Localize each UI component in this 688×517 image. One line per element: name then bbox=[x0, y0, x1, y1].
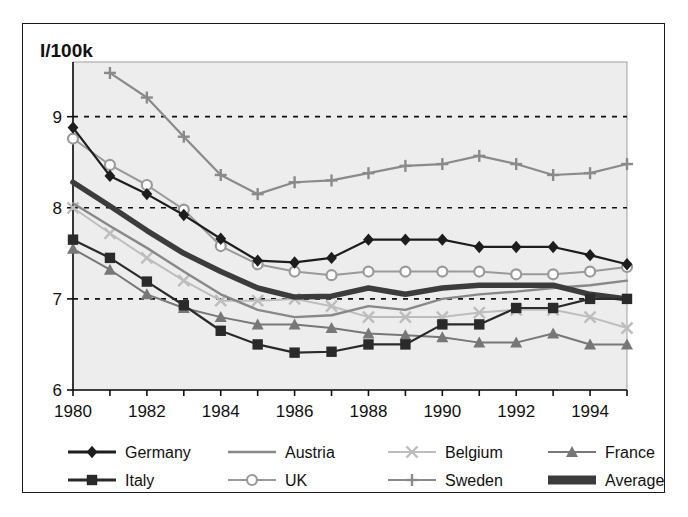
legend-item-average[interactable]: Average bbox=[548, 472, 664, 489]
legend-label-belgium: Belgium bbox=[445, 444, 503, 461]
legend-label-average: Average bbox=[605, 472, 664, 489]
marker-italy-1993 bbox=[548, 303, 558, 313]
legend-item-france[interactable]: France bbox=[548, 444, 655, 461]
marker-italy-1989 bbox=[400, 339, 410, 349]
legend-label-uk: UK bbox=[285, 472, 308, 489]
marker-uk-1990 bbox=[437, 267, 447, 277]
marker-italy-1981 bbox=[105, 253, 115, 263]
x-tick-label-1986: 1986 bbox=[276, 402, 314, 421]
legend-item-germany[interactable]: Germany bbox=[68, 444, 191, 461]
legend-label-austria: Austria bbox=[285, 444, 335, 461]
marker-uk-1988 bbox=[363, 267, 373, 277]
marker-uk-1989 bbox=[400, 267, 410, 277]
legend-item-belgium[interactable]: Belgium bbox=[388, 444, 503, 461]
legend-item-italy[interactable]: Italy bbox=[68, 472, 154, 489]
legend-marker-italy bbox=[87, 475, 97, 485]
legend-swatch-average bbox=[548, 476, 596, 485]
marker-italy-1985 bbox=[252, 339, 262, 349]
y-tick-label-9: 9 bbox=[53, 108, 62, 127]
marker-italy-1980 bbox=[68, 234, 78, 244]
marker-uk-1994 bbox=[585, 267, 595, 277]
marker-uk-1993 bbox=[548, 269, 558, 279]
marker-italy-1986 bbox=[289, 347, 299, 357]
legend-marker-germany bbox=[87, 446, 98, 458]
y-tick-label-8: 8 bbox=[53, 199, 62, 218]
marker-uk-1981 bbox=[105, 160, 115, 170]
marker-uk-1980 bbox=[68, 134, 78, 144]
y-tick-label-7: 7 bbox=[53, 290, 62, 309]
legend-item-sweden[interactable]: Sweden bbox=[388, 472, 503, 489]
x-tick-label-1992: 1992 bbox=[497, 402, 535, 421]
y-tick-label-6: 6 bbox=[53, 381, 62, 400]
x-tick-label-1988: 1988 bbox=[350, 402, 388, 421]
marker-uk-1992 bbox=[511, 269, 521, 279]
marker-italy-1992 bbox=[511, 303, 521, 313]
marker-italy-1994 bbox=[585, 294, 595, 304]
chart-canvas: 678919801982198419861988199019921994Germ… bbox=[0, 0, 688, 517]
legend-marker-uk bbox=[247, 475, 257, 485]
x-tick-label-1982: 1982 bbox=[128, 402, 166, 421]
marker-italy-1983 bbox=[179, 300, 189, 310]
plot-area-background bbox=[73, 62, 627, 390]
marker-italy-1995 bbox=[622, 294, 632, 304]
marker-uk-1987 bbox=[327, 270, 337, 280]
legend-marker-sweden bbox=[406, 474, 418, 486]
marker-italy-1984 bbox=[216, 326, 226, 336]
marker-italy-1987 bbox=[326, 347, 336, 357]
legend-label-italy: Italy bbox=[125, 472, 154, 489]
legend-label-germany: Germany bbox=[125, 444, 191, 461]
x-tick-label-1984: 1984 bbox=[202, 402, 240, 421]
marker-italy-1991 bbox=[474, 319, 484, 329]
marker-italy-1982 bbox=[142, 276, 152, 286]
legend-label-france: France bbox=[605, 444, 655, 461]
legend-item-austria[interactable]: Austria bbox=[228, 444, 335, 461]
marker-uk-1991 bbox=[474, 267, 484, 277]
x-tick-label-1994: 1994 bbox=[571, 402, 609, 421]
legend-label-sweden: Sweden bbox=[445, 472, 503, 489]
x-tick-label-1980: 1980 bbox=[54, 402, 92, 421]
marker-italy-1990 bbox=[437, 319, 447, 329]
marker-italy-1988 bbox=[363, 339, 373, 349]
line-chart-svg: 678919801982198419861988199019921994Germ… bbox=[0, 0, 688, 517]
legend-item-uk[interactable]: UK bbox=[228, 472, 308, 489]
x-tick-label-1990: 1990 bbox=[423, 402, 461, 421]
